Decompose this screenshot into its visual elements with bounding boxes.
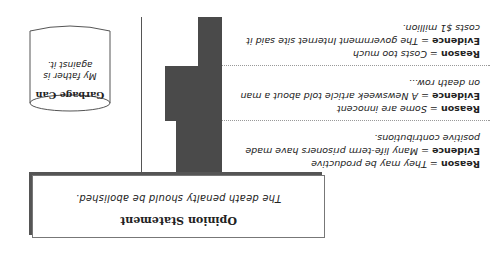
garbage-can: Garbage Can My father is against it. bbox=[28, 21, 112, 113]
divider-2 bbox=[222, 65, 490, 66]
reason-item-1: Reason = They may be productive Evidence… bbox=[230, 132, 480, 171]
divider-1 bbox=[222, 120, 490, 121]
reason-item-3: Reason = Costs too much Evidence = The g… bbox=[230, 22, 480, 61]
opinion-text: The death penalty should be abolished. bbox=[33, 193, 324, 204]
reason-text: Some are innocent bbox=[337, 104, 427, 115]
reason-label: Reason bbox=[441, 159, 480, 170]
evidence-label: Evidence bbox=[432, 91, 480, 102]
garbage-can-title: Garbage Can bbox=[28, 90, 112, 101]
reason-text: They may be productive bbox=[311, 159, 427, 170]
reason-text: Costs too much bbox=[353, 49, 427, 60]
evidence-label: Evidence bbox=[432, 146, 480, 157]
garbage-can-text: My father is against it. bbox=[28, 59, 112, 81]
opinion-title: Opinion Statement bbox=[33, 214, 324, 227]
reason-bar-1 bbox=[176, 121, 222, 175]
reason-label: Reason bbox=[441, 49, 480, 60]
reason-label: Reason bbox=[441, 104, 480, 115]
reason-item-2: Reason = Some are innocent Evidence = A … bbox=[230, 77, 480, 116]
diagram-canvas: Reason = They may be productive Evidence… bbox=[0, 0, 490, 255]
evidence-label: Evidence bbox=[432, 36, 480, 47]
opinion-statement-box: Opinion Statement The death penalty shou… bbox=[32, 175, 325, 238]
reason-bar-3 bbox=[198, 17, 222, 66]
reason-bar-2 bbox=[165, 66, 222, 121]
